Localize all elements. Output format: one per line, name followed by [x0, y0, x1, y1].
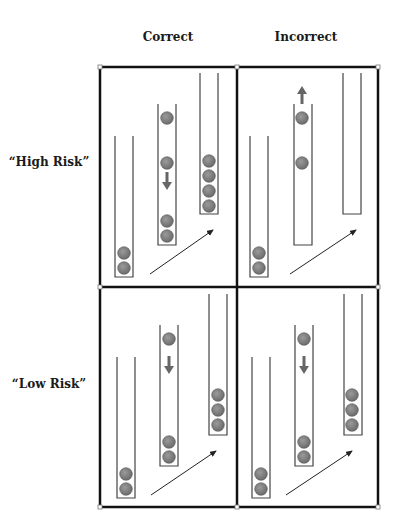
- trend-arrow-icon: [286, 451, 352, 495]
- trend-arrow-icon: [150, 230, 213, 274]
- tube: [250, 73, 361, 277]
- panel-high-risk-incorrect: [250, 73, 361, 277]
- panel-low-risk-correct: [117, 294, 227, 498]
- ball-group: [118, 112, 216, 275]
- grid-frame: [100, 67, 378, 507]
- arrow-down-icon: [162, 172, 172, 190]
- panel-high-risk-correct: [115, 73, 218, 277]
- ball-group: [253, 112, 309, 275]
- trend-arrow-icon: [290, 230, 356, 274]
- arrow-up-icon: [297, 86, 307, 104]
- tube: [117, 294, 227, 498]
- panel-low-risk-incorrect: [252, 294, 362, 498]
- trend-arrow-icon: [151, 451, 216, 495]
- diagram-canvas: [0, 0, 397, 524]
- arrow-down-icon: [299, 356, 309, 374]
- arrow-down-icon: [164, 356, 174, 374]
